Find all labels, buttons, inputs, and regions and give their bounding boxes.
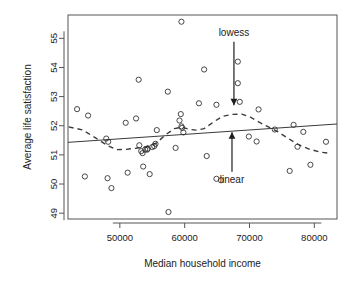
data-point bbox=[74, 107, 79, 112]
y-axis-tick-label: 55 bbox=[48, 33, 59, 44]
data-point bbox=[123, 120, 128, 125]
data-point bbox=[136, 77, 141, 82]
data-point bbox=[179, 19, 184, 24]
annotation-arrowhead-linear bbox=[229, 132, 236, 139]
x-axis-tick-label: 80000 bbox=[301, 232, 327, 243]
y-axis-tick-label: 51 bbox=[48, 150, 59, 161]
data-point bbox=[177, 118, 182, 123]
data-point bbox=[154, 128, 159, 133]
data-point bbox=[246, 134, 251, 139]
data-point bbox=[166, 209, 171, 214]
annotation-label-lowess: lowess bbox=[219, 27, 250, 38]
data-point bbox=[147, 172, 152, 177]
scatter-plot: 50000600007000080000Median household inc… bbox=[0, 0, 354, 282]
data-point bbox=[85, 113, 90, 118]
data-point bbox=[165, 89, 170, 94]
x-axis-tick-label: 50000 bbox=[107, 232, 133, 243]
data-point bbox=[237, 99, 242, 104]
y-axis-title: Average life satisfaction bbox=[22, 64, 33, 169]
data-point bbox=[202, 67, 207, 72]
data-point bbox=[301, 129, 306, 134]
data-point bbox=[308, 162, 313, 167]
annotation-arrowhead-lowess bbox=[231, 99, 238, 106]
data-point bbox=[196, 101, 201, 106]
data-point bbox=[173, 145, 178, 150]
annotation-label-linear: linear bbox=[220, 174, 245, 185]
y-axis-tick-label: 52 bbox=[48, 120, 59, 131]
y-axis-tick-label: 53 bbox=[48, 91, 59, 102]
x-axis-tick-label: 70000 bbox=[236, 232, 262, 243]
data-point bbox=[214, 102, 219, 107]
data-point bbox=[235, 81, 240, 86]
data-point bbox=[254, 139, 259, 144]
data-point bbox=[178, 111, 183, 116]
y-axis-tick-label: 50 bbox=[48, 179, 59, 190]
x-axis-tick-label: 60000 bbox=[171, 232, 197, 243]
chart-screenshot: 50000600007000080000Median household inc… bbox=[0, 0, 354, 282]
data-point bbox=[323, 139, 328, 144]
y-axis-tick-label: 54 bbox=[48, 62, 59, 73]
data-point bbox=[235, 59, 240, 64]
data-point bbox=[204, 153, 209, 158]
x-axis-title: Median household income bbox=[144, 258, 261, 269]
data-point bbox=[133, 116, 138, 121]
data-point bbox=[287, 168, 292, 173]
data-point bbox=[141, 164, 146, 169]
y-axis-tick-label: 49 bbox=[48, 208, 59, 219]
data-point bbox=[109, 186, 114, 191]
data-point bbox=[125, 170, 130, 175]
plot-frame bbox=[68, 15, 337, 219]
data-point bbox=[82, 174, 87, 179]
data-point bbox=[295, 144, 300, 149]
data-point bbox=[105, 176, 110, 181]
data-point bbox=[256, 107, 261, 112]
